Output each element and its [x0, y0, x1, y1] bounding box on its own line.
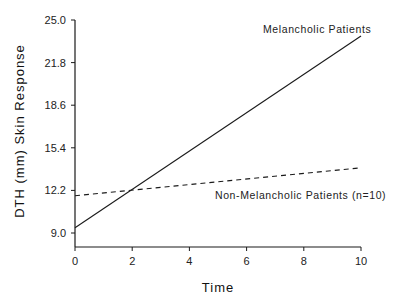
y-axis-title: DTH (mm) Skin Response	[12, 44, 27, 218]
y-tick-label: 25.0	[45, 14, 66, 26]
x-tick-label: 4	[186, 255, 192, 267]
x-tick-label: 8	[301, 255, 307, 267]
melancholic-label: Melancholic Patients	[263, 23, 371, 35]
y-tick-label: 18.6	[45, 99, 66, 111]
y-axis: 9.012.215.418.621.825.0	[45, 14, 75, 247]
non-melancholic-label: Non-Melancholic Patients (n=10)	[215, 189, 386, 201]
x-axis: 0246810	[72, 247, 367, 267]
y-tick-label: 15.4	[45, 142, 66, 154]
x-tick-label: 0	[72, 255, 78, 267]
annotations: Melancholic PatientsNon-Melancholic Pati…	[215, 23, 386, 201]
y-tick-label: 21.8	[45, 57, 66, 69]
x-tick-label: 6	[244, 255, 250, 267]
y-tick-label: 9.0	[51, 227, 66, 239]
chart: 9.012.215.418.621.825.0 0246810 Melancho…	[0, 0, 404, 305]
y-tick-label: 12.2	[45, 184, 66, 196]
x-tick-label: 2	[129, 255, 135, 267]
x-tick-label: 10	[355, 255, 367, 267]
x-axis-title: Time	[202, 280, 234, 295]
